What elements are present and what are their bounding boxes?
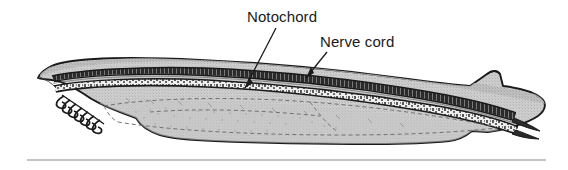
label-nerve-cord: Nerve cord <box>320 33 394 50</box>
lancelet-illustration-svg: Notochord Nerve cord <box>0 0 568 170</box>
caudal-cord-taper-2 <box>512 130 539 139</box>
label-notochord: Notochord <box>247 8 317 25</box>
lancelet-figure: Notochord Nerve cord <box>0 0 568 170</box>
lancelet-body <box>0 0 568 170</box>
